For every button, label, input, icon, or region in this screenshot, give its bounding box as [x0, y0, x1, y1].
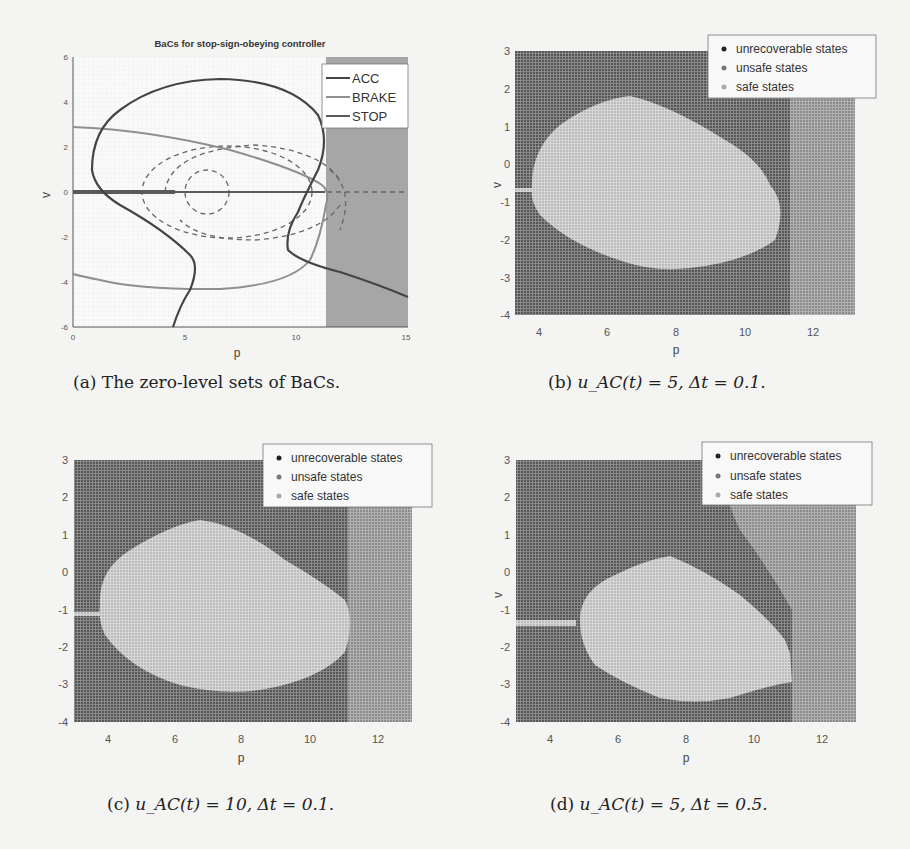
y-axis-label: v: [39, 192, 53, 198]
ytick: 1: [504, 121, 510, 133]
xtick: 8: [238, 733, 244, 745]
xtick: 10: [304, 733, 316, 745]
xtick: 4: [547, 733, 553, 745]
y-axis-label: v: [491, 592, 505, 598]
ytick: -2: [58, 641, 68, 653]
ytick: 3: [504, 454, 510, 466]
legend-unsafe: unsafe states: [291, 470, 362, 484]
xtick: 10: [748, 733, 760, 745]
legend-safe: safe states: [291, 489, 349, 503]
figure-b-plot: 3 2 1 0 -1 -2 -3 -4 4 6 8 10 12 p v unre…: [470, 0, 910, 360]
ytick: -4: [500, 309, 510, 321]
ytick: 2: [504, 83, 510, 95]
ytick: 1: [504, 529, 510, 541]
legend-acc: ACC: [352, 71, 379, 86]
legend-safe: safe states: [736, 80, 794, 94]
ytick: 0: [62, 566, 68, 578]
figure-d-legend: unrecoverable states unsafe states safe …: [702, 442, 872, 505]
xtick: 8: [683, 733, 689, 745]
xtick: 6: [615, 733, 621, 745]
figure-a-title: BaCs for stop-sign-obeying controller: [154, 38, 325, 49]
figure-d-plot: 3 2 1 0 -1 -2 -3 -4 4 6 8 10 12 p v unre…: [470, 420, 910, 780]
x-axis-label: p: [673, 343, 680, 357]
figure-c-plot: 3 2 1 0 -1 -2 -3 -4 4 6 8 10 12 p unreco…: [0, 420, 455, 780]
legend-unrecoverable: unrecoverable states: [730, 449, 841, 463]
legend-unrecoverable: unrecoverable states: [291, 451, 402, 465]
x-axis-label: p: [683, 751, 690, 765]
legend-unsafe: unsafe states: [736, 61, 807, 75]
xtick: 6: [172, 733, 178, 745]
legend-unrecoverable: unrecoverable states: [736, 42, 847, 56]
ytick: -1: [500, 196, 510, 208]
ytick: -1: [500, 604, 510, 616]
legend-brake: BRAKE: [352, 90, 396, 105]
ytick: -3: [500, 678, 510, 690]
ytick: -3: [58, 678, 68, 690]
figure-c-legend: unrecoverable states unsafe states safe …: [263, 444, 432, 507]
xtick: 5: [183, 333, 188, 342]
figure-a-legend: ACC BRAKE STOP: [322, 64, 408, 128]
ytick: -4: [61, 278, 69, 287]
ytick: 0: [504, 158, 510, 170]
xtick: 15: [402, 333, 411, 342]
ytick: -2: [61, 233, 69, 242]
xtick: 10: [292, 333, 301, 342]
ytick: 3: [62, 454, 68, 466]
legend-stop: STOP: [352, 109, 387, 124]
ytick: -2: [500, 234, 510, 246]
ytick: 2: [504, 491, 510, 503]
ytick: -3: [500, 272, 510, 284]
figure-a-plot: BaCs for stop-sign-obeying controller 6 …: [0, 0, 455, 360]
xtick: 6: [604, 326, 610, 338]
ytick: 3: [504, 45, 510, 57]
ytick: 0: [504, 566, 510, 578]
legend-unsafe: unsafe states: [730, 469, 801, 483]
figure-c-caption: (c) u_AC(t) = 10, Δt = 0.1.: [107, 794, 334, 814]
ytick: -4: [500, 716, 510, 728]
ytick: 4: [64, 98, 69, 107]
xtick: 8: [673, 326, 679, 338]
xtick: 10: [739, 326, 751, 338]
ytick: 1: [62, 529, 68, 541]
xtick: 4: [536, 326, 542, 338]
ytick: 6: [64, 53, 69, 62]
x-axis-label: p: [234, 346, 241, 360]
ytick: 2: [64, 143, 69, 152]
xtick: 12: [807, 326, 819, 338]
ytick: -4: [58, 716, 68, 728]
ytick: -6: [61, 323, 69, 332]
ytick: -1: [58, 604, 68, 616]
figure-b-caption: (b) u_AC(t) = 5, Δt = 0.1.: [548, 372, 766, 392]
y-axis-label: v: [490, 182, 504, 188]
figure-b-legend: unrecoverable states unsafe states safe …: [708, 35, 876, 98]
legend-safe: safe states: [730, 488, 788, 502]
ytick: 2: [62, 491, 68, 503]
ytick: 0: [64, 188, 69, 197]
xtick: 12: [372, 733, 384, 745]
figure-a-caption: (a) The zero-level sets of BaCs.: [73, 372, 340, 392]
xtick: 12: [816, 733, 828, 745]
xtick: 4: [105, 733, 111, 745]
figure-d-caption: (d) u_AC(t) = 5, Δt = 0.5.: [550, 794, 768, 814]
x-axis-label: p: [238, 751, 245, 765]
xtick: 0: [71, 333, 76, 342]
ytick: -2: [500, 641, 510, 653]
